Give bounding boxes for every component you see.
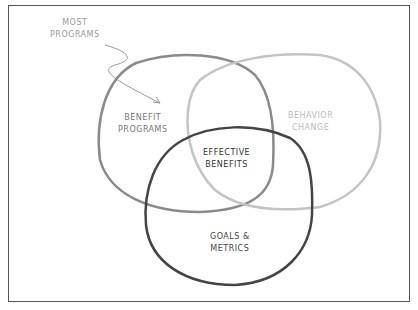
annotation-label: MOSTPROGRAMS [50, 17, 100, 41]
benefit-programs-label: BENEFITPROGRAMS [118, 112, 168, 136]
effective-benefits-label: EFFECTIVEBENEFITS [203, 147, 250, 171]
annotation-arrow [105, 45, 160, 103]
behavior-change-label: BEHAVIORCHANGE [288, 110, 333, 134]
goals-metrics-label: GOALS &METRICS [210, 231, 250, 255]
behavior-change-circle [187, 54, 380, 209]
